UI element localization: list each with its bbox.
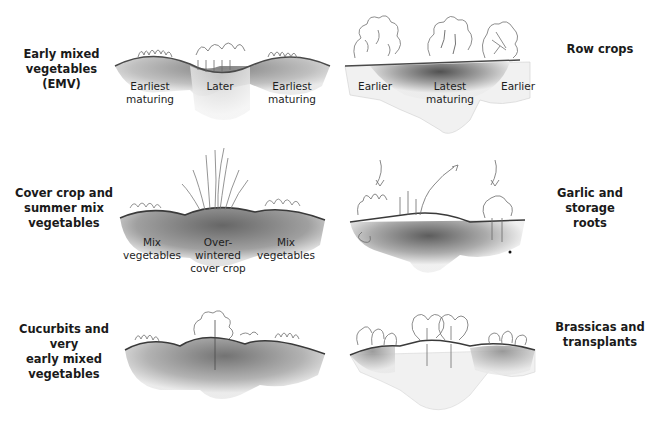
panel-title: Brassicas and transplants xyxy=(555,320,645,350)
bed-illustration-brassicas xyxy=(0,0,650,423)
